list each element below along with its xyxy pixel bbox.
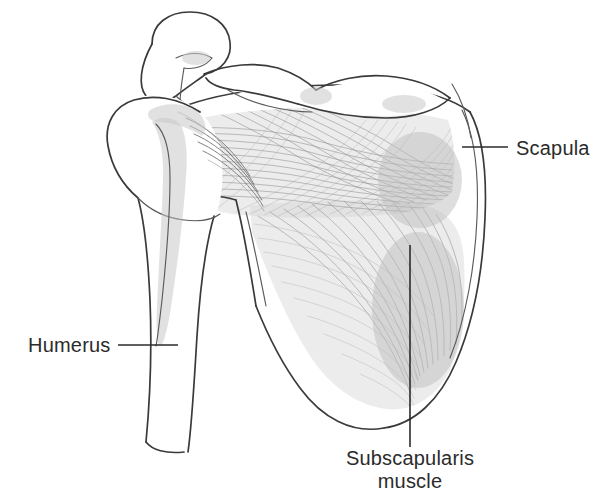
scapula-label: Scapula (516, 137, 590, 159)
clavicle-shading (382, 95, 426, 113)
illustration-canvas: Scapula Humerus Subscapularis muscle (0, 0, 610, 499)
coracoid-shading (182, 51, 210, 65)
anatomical-figure: Scapula Humerus Subscapularis muscle (0, 0, 610, 499)
subscapularis-label-line1: Subscapularis (346, 447, 474, 469)
subscapularis-label-line2: muscle (378, 470, 443, 492)
muscle-shade-upper-lobe (378, 132, 462, 228)
humerus-label: Humerus (28, 334, 111, 356)
acromion-shading (300, 87, 332, 105)
muscle-shade-lower-lobe (372, 232, 464, 388)
